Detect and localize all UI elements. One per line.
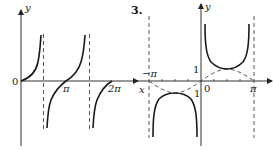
left-y-label: y xyxy=(24,2,31,13)
right-y-label: y xyxy=(204,1,211,12)
right-origin-label: 0 xyxy=(204,83,210,94)
tan-branch-1 xyxy=(21,35,41,81)
figure-canvas: y 0 π 2π 3. y x −π π 0 1 1 xyxy=(0,0,273,150)
csc-branch-positive xyxy=(205,24,249,69)
y-neg-one-label: 1 xyxy=(194,88,200,99)
left-pi-label: π xyxy=(62,83,70,94)
right-graph: 3. y x −π π 0 1 1 xyxy=(131,1,272,146)
left-graph: y 0 π 2π xyxy=(12,2,138,146)
right-x-label: x xyxy=(139,84,145,95)
problem-number: 3. xyxy=(131,4,142,17)
csc-branch-negative xyxy=(153,93,197,137)
right-pi-label: π xyxy=(249,83,257,94)
left-2pi-label: 2π xyxy=(107,83,121,94)
neg-pi-label: −π xyxy=(142,68,157,79)
y-one-label: 1 xyxy=(193,64,199,75)
left-origin-label: 0 xyxy=(12,76,18,87)
